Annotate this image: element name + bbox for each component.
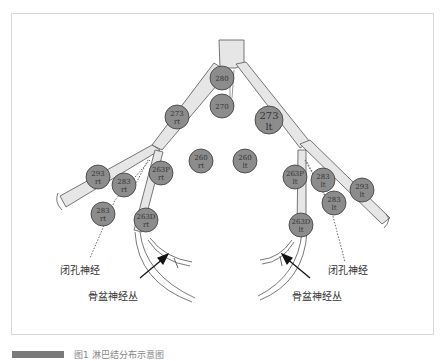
node-label: 260 — [194, 154, 207, 162]
node-side-label: rt — [198, 162, 204, 170]
node-side-label: rt — [174, 118, 180, 126]
lymph-node-n280: 280 — [210, 66, 234, 90]
node-label: 293 — [355, 183, 368, 191]
figure-caption: 图1 淋巴结分布示意图 — [74, 348, 164, 361]
lymph-node-n293lt: 293lt — [350, 178, 374, 202]
node-label: 283 — [96, 207, 109, 215]
node-label: 293 — [91, 170, 104, 178]
node-label: 283 — [117, 178, 130, 186]
node-side-label: lt — [320, 181, 325, 189]
lymph-node-n293rt: 293rt — [86, 165, 110, 189]
lymph-node-n263Prt: 263Prt — [149, 161, 173, 185]
node-label: 280 — [215, 75, 228, 83]
obturator-nerve-label-right: 闭孔神经 — [328, 262, 368, 277]
node-side-label: lt — [242, 162, 247, 170]
node-label: 263D — [292, 218, 311, 226]
lymph-node-n283rt_a: 283rt — [112, 173, 136, 197]
node-side-label: rt — [143, 221, 149, 229]
node-label: 263D — [137, 213, 156, 221]
node-label: 273 — [170, 110, 183, 118]
lymph-node-n263Plt: 263Plt — [283, 165, 307, 189]
node-side-label: lt — [359, 191, 364, 199]
lymph-node-n283rt_b: 283rt — [91, 202, 115, 226]
obturator-nerve-label-left: 闭孔神经 — [60, 262, 100, 277]
lymph-node-n260lt: 260lt — [233, 149, 257, 173]
node-label: 283 — [316, 173, 329, 181]
lymph-node-n263Dlt: 263Dlt — [289, 213, 313, 237]
node-side-label: lt — [298, 226, 303, 234]
node-side-label: lt — [331, 204, 336, 212]
pelvic-plexus-label-right: 骨盆神经丛 — [292, 288, 342, 303]
node-side-label: rt — [121, 186, 127, 194]
lymph-node-n270: 270 — [210, 94, 234, 118]
node-label: 273 — [259, 110, 278, 121]
lymph-node-n283lt_b: 283lt — [322, 191, 346, 215]
node-side-label: rt — [158, 174, 164, 182]
lymph-node-n283lt_a: 283lt — [311, 168, 335, 192]
lymph-node-n273lt: 273lt — [255, 106, 283, 134]
node-side-label: lt — [265, 121, 272, 132]
node-label: 260 — [238, 154, 251, 162]
lymph-node-n273rt: 273rt — [165, 105, 189, 129]
lymph-node-n260rt: 260rt — [189, 149, 213, 173]
pelvic-nerves-left — [135, 232, 195, 302]
node-label: 263P — [152, 166, 170, 174]
node-side-label: lt — [292, 178, 297, 186]
node-label: 283 — [327, 196, 340, 204]
node-label: 270 — [215, 103, 228, 111]
caption-marker — [12, 351, 64, 358]
lymph-node-n263Drt: 263Drt — [134, 208, 158, 232]
node-label: 263P — [286, 170, 304, 178]
node-side-label: rt — [95, 178, 101, 186]
node-side-label: rt — [100, 215, 106, 223]
pelvic-plexus-label-left: 骨盆神经丛 — [88, 288, 138, 303]
